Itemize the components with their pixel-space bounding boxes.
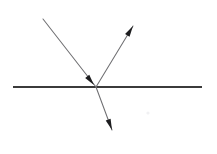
diagram-background — [0, 0, 217, 154]
scan-speck-artifact — [146, 111, 149, 114]
ray-diagram-canvas — [0, 0, 217, 154]
ray-diagram-svg — [0, 0, 217, 154]
